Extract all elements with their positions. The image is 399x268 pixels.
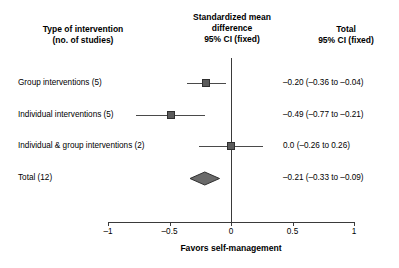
effect-estimate-marker bbox=[167, 111, 175, 119]
x-axis-tick-label: –1 bbox=[93, 227, 123, 237]
column-header-effect: Standardized mean difference 95% CI (fix… bbox=[168, 12, 296, 45]
column-header-effect-line3: 95% CI (fixed) bbox=[168, 34, 296, 45]
x-axis-tick bbox=[293, 222, 294, 226]
x-axis-tick-label: 1 bbox=[339, 227, 369, 237]
x-axis-tick bbox=[231, 222, 232, 226]
row-ci-text: 0.0 (–0.26 to 0.26) bbox=[283, 141, 350, 151]
x-axis-tick bbox=[170, 222, 171, 226]
effect-estimate-marker bbox=[227, 142, 235, 150]
forest-plot: Type of intervention (no. of studies) St… bbox=[0, 0, 399, 268]
column-header-intervention-line2: (no. of studies) bbox=[8, 35, 158, 46]
column-header-total-line1: Total bbox=[296, 24, 396, 35]
column-header-effect-line2: difference bbox=[168, 23, 296, 34]
column-header-effect-line1: Standardized mean bbox=[168, 12, 296, 23]
x-axis-tick bbox=[354, 222, 355, 226]
column-header-total: Total 95% CI (fixed) bbox=[296, 24, 396, 46]
x-axis-title: Favors self-management bbox=[108, 243, 354, 253]
column-header-total-line2: 95% CI (fixed) bbox=[296, 35, 396, 46]
column-header-intervention-line1: Type of intervention bbox=[8, 24, 158, 35]
row-label: Individual & group interventions (2) bbox=[18, 141, 145, 151]
row-label: Individual interventions (5) bbox=[18, 110, 114, 120]
row-ci-text: –0.49 (–0.77 to –0.21) bbox=[283, 110, 364, 120]
row-label: Total (12) bbox=[18, 173, 52, 183]
row-ci-text: –0.21 (–0.33 to –0.09) bbox=[283, 173, 364, 183]
x-axis-tick-label: –0.5 bbox=[155, 227, 185, 237]
row-label: Group interventions (5) bbox=[18, 78, 102, 88]
effect-estimate-marker bbox=[202, 79, 210, 87]
summary-diamond bbox=[189, 171, 221, 186]
x-axis-tick bbox=[108, 222, 109, 226]
column-header-intervention: Type of intervention (no. of studies) bbox=[8, 24, 158, 46]
x-axis-tick-label: 0 bbox=[216, 227, 246, 237]
row-ci-text: –0.20 (–0.36 to –0.04) bbox=[283, 78, 364, 88]
x-axis-tick-label: 0.5 bbox=[278, 227, 308, 237]
null-effect-line bbox=[231, 58, 232, 222]
